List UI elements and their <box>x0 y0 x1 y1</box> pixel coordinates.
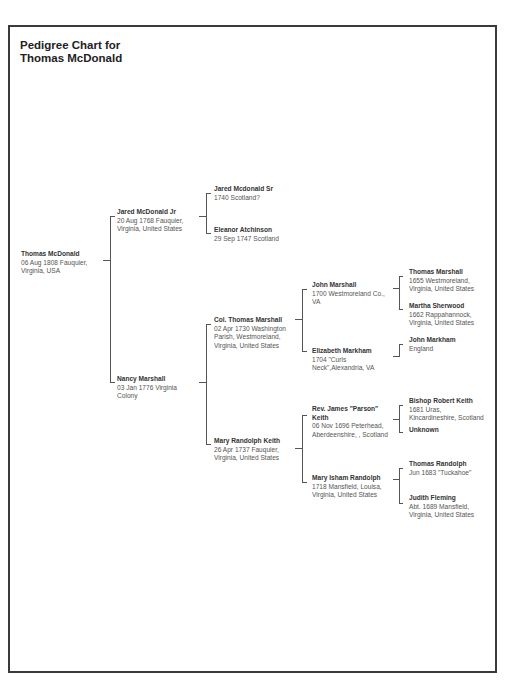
connector <box>399 432 403 433</box>
person-name: John Marshall <box>312 281 385 290</box>
person-birth: Abt. 1689 Mansfield, <box>409 503 474 512</box>
person-birth: 29 Sep 1747 Scotland <box>214 235 279 244</box>
connector <box>206 444 211 445</box>
person-birth: 06 Aug 1808 Fauquier, <box>21 259 87 268</box>
person-birth: 1704 "Curls <box>312 356 374 365</box>
person-gggm-unknown[interactable]: Unknown <box>409 426 439 435</box>
person-name: Jared McDonald Jr <box>117 208 183 217</box>
person-name: Rev. James "Parson" <box>312 405 388 414</box>
person-ggm-mary-isham-randolph[interactable]: Mary Isham Randolph 1718 Mansfield, Loui… <box>312 474 382 500</box>
connector <box>302 289 307 290</box>
person-place: Aberdeenshire, , Scotland <box>312 431 388 440</box>
connector <box>206 233 211 234</box>
connector <box>399 309 403 310</box>
connector <box>295 319 302 320</box>
person-name: John Markham <box>409 336 456 345</box>
connector <box>399 276 403 277</box>
person-birth: 02 Apr 1730 Washington <box>214 325 286 334</box>
person-birth: 1662 Rappahannock, <box>409 311 474 320</box>
person-birth: 20 Aug 1768 Fauquier, <box>117 217 183 226</box>
person-maternal-grandmother[interactable]: Mary Randolph Keith 26 Apr 1737 Fauquier… <box>214 437 280 463</box>
person-name: Eleanor Atchinson <box>214 226 279 235</box>
person-birth: 1681 Uras, <box>409 406 484 415</box>
person-paternal-grandfather[interactable]: Jared Mcdonald Sr 1740 Scotland? <box>214 185 273 202</box>
person-place: Virginia, United States <box>409 319 474 328</box>
person-ggf-john-marshall[interactable]: John Marshall 1700 Westmoreland Co., VA <box>312 281 385 307</box>
person-father[interactable]: Jared McDonald Jr 20 Aug 1768 Fauquier, … <box>117 208 183 234</box>
person-gggf-thomas-marshall[interactable]: Thomas Marshall 1655 Westmoreland, Virgi… <box>409 268 474 294</box>
connector <box>302 289 303 352</box>
person-place: Colony <box>117 392 177 401</box>
connector <box>199 216 206 217</box>
person-name: Thomas Marshall <box>409 268 474 277</box>
connector <box>302 415 307 416</box>
person-birth: 03 Jan 1776 Virginia <box>117 384 177 393</box>
person-birth: 26 Apr 1737 Fauquier, <box>214 446 280 455</box>
person-name: Elizabeth Markham <box>312 347 374 356</box>
connector <box>206 324 211 325</box>
person-gggf-thomas-randolph[interactable]: Thomas Randolph Jun 1683 "Tuckahoe" <box>409 460 471 477</box>
person-place: VA <box>312 298 385 307</box>
connector <box>399 344 403 345</box>
person-name: Mary Isham Randolph <box>312 474 382 483</box>
connector <box>399 344 400 357</box>
connector <box>110 382 115 383</box>
person-place: Virginia, United States <box>312 491 382 500</box>
person-birth: 1718 Mansfield, Louisa, <box>312 483 382 492</box>
connector <box>103 260 110 261</box>
person-birth: 1655 Westmoreland, <box>409 277 474 286</box>
person-root[interactable]: Thomas McDonald 06 Aug 1808 Fauquier, Vi… <box>21 250 87 276</box>
person-birth: 1700 Westmoreland Co., <box>312 290 385 299</box>
person-name: Thomas Randolph <box>409 460 471 469</box>
person-name: Judith Fleming <box>409 494 474 503</box>
connector <box>302 415 303 483</box>
connector <box>302 351 307 352</box>
connector <box>206 324 207 445</box>
person-name: Jared Mcdonald Sr <box>214 185 273 194</box>
person-birth: England <box>409 345 456 354</box>
person-name: Col. Thomas Marshall <box>214 316 286 325</box>
person-place: Virginia, United States <box>409 511 474 520</box>
connector <box>110 216 115 217</box>
connector <box>302 482 307 483</box>
person-gggf-john-markham[interactable]: John Markham England <box>409 336 456 353</box>
person-name: Bishop Robert Keith <box>409 397 484 406</box>
connector <box>206 193 207 234</box>
connector <box>399 468 400 504</box>
person-birth: 06 Nov 1696 Peterhead, <box>312 422 388 431</box>
person-birth: Jun 1683 "Tuckahoe" <box>409 469 471 478</box>
person-ggm-elizabeth-markham[interactable]: Elizabeth Markham 1704 "Curls Neck",Alex… <box>312 347 374 373</box>
person-paternal-grandmother[interactable]: Eleanor Atchinson 29 Sep 1747 Scotland <box>214 226 279 243</box>
connector <box>199 382 206 383</box>
connector <box>399 468 403 469</box>
connector <box>399 276 400 310</box>
person-place: Virginia, United States <box>214 342 286 351</box>
person-name-cont: Keith <box>312 414 388 423</box>
person-mother[interactable]: Nancy Marshall 03 Jan 1776 Virginia Colo… <box>117 375 177 401</box>
connector <box>399 503 403 504</box>
person-place: Virginia, USA <box>21 267 87 276</box>
chart-title-line1: Pedigree Chart for <box>20 39 220 52</box>
person-gggf-robert-keith[interactable]: Bishop Robert Keith 1681 Uras, Kincardin… <box>409 397 484 423</box>
person-place: Parish, Westmoreland, <box>214 333 286 342</box>
person-place: Virginia, United States <box>409 285 474 294</box>
connector <box>399 405 400 433</box>
person-birth: 1740 Scotland? <box>214 194 273 203</box>
chart-title: Pedigree Chart for Thomas McDonald <box>20 39 220 65</box>
person-ggf-james-keith[interactable]: Rev. James "Parson" Keith 06 Nov 1696 Pe… <box>312 405 388 439</box>
chart-title-line2: Thomas McDonald <box>20 52 220 65</box>
person-maternal-grandfather[interactable]: Col. Thomas Marshall 02 Apr 1730 Washing… <box>214 316 286 350</box>
connector <box>295 448 302 449</box>
connector <box>110 216 111 383</box>
connector <box>399 405 403 406</box>
person-place: Virginia, United States <box>117 225 183 234</box>
person-gggm-martha-sherwood[interactable]: Martha Sherwood 1662 Rappahannock, Virgi… <box>409 302 474 328</box>
person-name: Thomas McDonald <box>21 250 87 259</box>
connector <box>206 193 211 194</box>
person-name: Nancy Marshall <box>117 375 177 384</box>
person-place: Neck",Alexandria, VA <box>312 364 374 373</box>
person-place: Virginia, United States <box>214 454 280 463</box>
person-gggm-judith-fleming[interactable]: Judith Fleming Abt. 1689 Mansfield, Virg… <box>409 494 474 520</box>
person-name: Martha Sherwood <box>409 302 474 311</box>
person-name: Mary Randolph Keith <box>214 437 280 446</box>
